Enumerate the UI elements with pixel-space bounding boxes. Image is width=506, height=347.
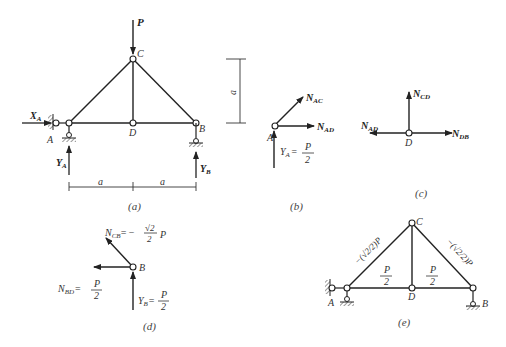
force-label-NDB: NDB: [451, 128, 469, 141]
roller-support-icon: [189, 143, 203, 147]
fraction-sqrt2-over-2: √2 2: [144, 223, 157, 244]
wall-support-icon: [48, 115, 53, 129]
pin-icon: [329, 285, 335, 291]
panel-c: NCD NAD NDB D (c): [360, 88, 469, 200]
node-label-B: B: [199, 123, 205, 134]
dim-label-height: a: [227, 90, 238, 95]
member-force-DB: P 2: [426, 264, 438, 287]
member-force-AC: −(√2/2)P: [352, 235, 383, 266]
joint-A: [272, 123, 278, 129]
force-arrow-NCB: [106, 238, 132, 266]
dim-label-right: a: [160, 176, 165, 187]
reaction-label-YB: YB=: [138, 295, 155, 308]
svg-text:P: P: [93, 278, 100, 289]
joint-B: [470, 285, 476, 291]
force-label-NCB: NCB= −: [104, 227, 135, 240]
node-label-A: A: [46, 134, 54, 145]
roller-support-icon: [466, 306, 480, 310]
fraction-P-over-2: P 2: [91, 278, 102, 301]
panel-d: B NCB= − √2 2 P NBD= P 2 YB= P 2 (d): [57, 223, 169, 333]
caption-e: (e): [398, 316, 411, 329]
force-label-NAD: NAD: [360, 120, 378, 133]
fraction-P-over-2: P 2: [158, 289, 169, 312]
svg-text:2: 2: [94, 290, 99, 301]
pin-icon: [53, 120, 59, 126]
reaction-label-YA: YA: [56, 157, 67, 170]
truss-figure: P XA A YA C D B YB: [0, 0, 506, 347]
svg-text:2: 2: [430, 276, 435, 287]
node-label-A: A: [327, 297, 335, 308]
joint-B: [130, 264, 136, 270]
caption-b: (b): [290, 200, 303, 213]
caption-d: (d): [143, 320, 156, 333]
joint-A: [66, 120, 72, 126]
force-arrow-NAC: [276, 97, 303, 124]
svg-text:2: 2: [161, 301, 166, 312]
member-force-AD: P 2: [380, 264, 392, 287]
reaction-label-YB: YB: [200, 163, 211, 176]
joint-A: [344, 285, 350, 291]
member-CB: [133, 59, 196, 123]
reaction-label-XA: XA: [29, 110, 42, 123]
node-label-C: C: [137, 48, 144, 59]
node-label-A: A: [266, 132, 274, 143]
force-label-NAC: NAC: [305, 92, 323, 105]
node-label-B: B: [139, 262, 145, 273]
node-label-D: D: [128, 127, 137, 138]
node-label-D: D: [407, 291, 416, 302]
fraction-P-over-2: P 2: [302, 141, 314, 165]
ground-support-icon: [340, 302, 354, 306]
panel-e: A B C D −(√2/2)P −(√2/2)P P 2 P 2 (e): [325, 216, 488, 329]
dim-label-left: a: [98, 176, 103, 187]
svg-text:√2: √2: [145, 223, 155, 233]
reaction-label-YA: YA=: [280, 146, 298, 159]
force-label-NBD: NBD=: [57, 283, 81, 296]
node-label-D: D: [404, 137, 413, 148]
ground-support-icon: [62, 138, 76, 142]
joint-D: [406, 130, 412, 136]
caption-a: (a): [128, 200, 141, 213]
joint-C: [409, 220, 415, 226]
member-AC: [69, 59, 133, 123]
joint-C: [130, 56, 136, 62]
force-NCB-P: P: [159, 229, 166, 240]
member-force-CB: −(√2/2)P: [445, 237, 476, 269]
dimension-horizontal: [69, 182, 196, 191]
node-label-C: C: [416, 216, 423, 227]
svg-text:P: P: [383, 264, 390, 275]
joint-D: [130, 120, 136, 126]
force-label-NAD: NAD: [316, 121, 334, 134]
load-label: P: [137, 16, 144, 28]
svg-text:2: 2: [147, 234, 152, 244]
caption-c: (c): [415, 187, 428, 200]
panel-a: P XA A YA C D B YB: [22, 16, 246, 213]
svg-text:2: 2: [305, 154, 310, 165]
svg-text:2: 2: [384, 276, 389, 287]
svg-text:P: P: [160, 289, 167, 300]
force-label-NCD: NCD: [412, 88, 430, 101]
panel-b: NAC NAD A YA= P 2 (b): [266, 92, 334, 213]
truss-members: [69, 59, 196, 123]
svg-text:P: P: [304, 141, 311, 152]
svg-text:P: P: [429, 264, 436, 275]
node-label-B: B: [482, 298, 488, 309]
